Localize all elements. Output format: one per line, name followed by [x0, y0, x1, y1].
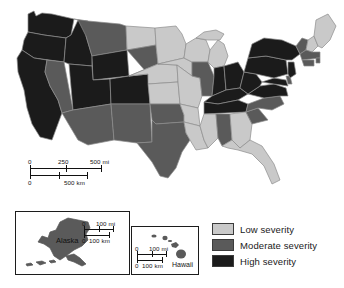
severity-legend: Low severity Moderate severity High seve… [212, 221, 340, 273]
legend-label-moderate: Moderate severity [240, 240, 317, 251]
inset-HI-oahu[interactable] [162, 236, 167, 240]
inset-AK-aleutian-4[interactable] [49, 260, 56, 263]
state-NM[interactable] [111, 104, 152, 143]
scale-mi-500: 500 mi [90, 158, 109, 165]
inset-HI-molokai[interactable] [168, 240, 172, 242]
hawaii-inset[interactable]: Hawaii 0 100 mi 0 100 km [131, 226, 199, 275]
inset-AK-aleutian-3[interactable] [26, 263, 33, 266]
hawaii-scale-bar: 0 100 mi 0 100 km [135, 245, 179, 273]
state-WI[interactable] [184, 38, 210, 62]
hi-scale-km-0: 0 [135, 262, 139, 269]
state-FL[interactable] [222, 140, 280, 184]
scale-km-tick-mid [59, 172, 60, 179]
legend-item-low[interactable]: Low severity [212, 221, 340, 237]
ak-mi-tick-mid [99, 226, 100, 232]
scale-mi-250: 250 [58, 158, 69, 165]
scale-km-tick-500 [87, 172, 88, 179]
scale-km-tick-0 [30, 172, 31, 179]
state-MI-up[interactable] [196, 30, 224, 40]
alaska-label: Alaska [56, 236, 79, 245]
alaska-scale-bar: 0 100 mi 0 100 km [82, 220, 128, 248]
scale-mi-0: 0 [28, 158, 32, 165]
scale-km-500: 500 km [64, 179, 85, 186]
state-NJ[interactable] [288, 62, 296, 78]
state-NC[interactable] [246, 96, 284, 112]
state-OK[interactable] [150, 104, 184, 124]
hi-mi-tick-100 [166, 251, 167, 257]
choropleth-map: 0 250 500 mi 0 500 km Alaska 0 [0, 0, 344, 288]
alaska-inset[interactable]: Alaska 0 100 mi 0 100 km [15, 211, 130, 275]
scale-mi-tick-0 [30, 165, 31, 172]
ak-km-bar [84, 235, 110, 236]
legend-label-high: High severity [240, 256, 296, 267]
main-scale-bar: 0 250 500 mi 0 500 km [28, 158, 120, 192]
legend-item-high[interactable]: High severity [212, 253, 340, 269]
state-NY[interactable] [248, 38, 300, 60]
ak-scale-km-100: 100 km [89, 237, 110, 244]
inset-HI-kauai[interactable] [151, 234, 156, 237]
legend-swatch-low-icon [212, 223, 234, 235]
hi-mi-tick-mid [152, 251, 153, 257]
state-ME[interactable] [314, 14, 336, 48]
legend-swatch-high-icon [212, 255, 234, 267]
legend-label-low: Low severity [240, 224, 294, 235]
scale-km-0: 0 [28, 179, 32, 186]
state-CO[interactable] [110, 74, 150, 104]
state-KS[interactable] [148, 82, 180, 104]
ak-scale-km-0: 0 [82, 237, 86, 244]
state-RI[interactable] [316, 58, 320, 63]
scale-mi-tick-500 [101, 165, 102, 172]
hi-km-bar [137, 260, 163, 261]
legend-item-moderate[interactable]: Moderate severity [212, 237, 340, 253]
ak-mi-tick-100 [113, 226, 114, 232]
legend-swatch-moderate-icon [212, 239, 234, 251]
inset-AK-aleutian-1[interactable] [66, 254, 86, 266]
scale-mi-tick-250 [66, 165, 67, 172]
state-MI[interactable] [208, 40, 228, 68]
inset-AK-aleutian-2[interactable] [36, 261, 46, 265]
state-CT[interactable] [302, 60, 314, 66]
hi-scale-km-100: 100 km [142, 262, 163, 269]
